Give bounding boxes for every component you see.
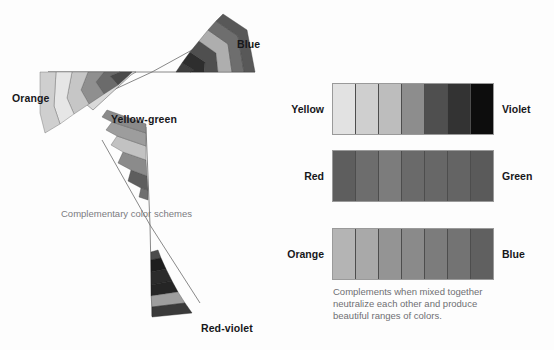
row-label-orange: Orange xyxy=(238,248,324,260)
caption-line-3: beautiful ranges of colors. xyxy=(333,310,513,322)
yellow-violet-row-swatch-6 xyxy=(448,84,471,134)
wedge-label-red-violet: Red-violet xyxy=(201,322,253,334)
red-green-row-swatch-7 xyxy=(471,151,493,201)
wedge-label-yellow-green: Yellow-green xyxy=(111,113,177,125)
caption-line-1: Complements when mixed together xyxy=(333,286,513,298)
yellow-violet-row-swatch-4 xyxy=(402,84,425,134)
orange-blue-row-swatch-2 xyxy=(356,229,379,279)
yellow-violet-row-swatch-3 xyxy=(379,84,402,134)
row-label-yellow: Yellow xyxy=(238,103,324,115)
wedge-label-blue: Blue xyxy=(237,38,260,50)
red-green-row-swatch-6 xyxy=(448,151,471,201)
yellow-violet-row-swatch-1 xyxy=(333,84,356,134)
orange-blue-row-swatch-5 xyxy=(425,229,448,279)
row-label-green: Green xyxy=(502,170,532,182)
figure-canvas: Orange Blue Yellow-green Red-violet Comp… xyxy=(0,0,554,350)
yellow-violet-row-swatch-2 xyxy=(356,84,379,134)
red-green-row-swatch-5 xyxy=(425,151,448,201)
orange-blue-row-swatch-7 xyxy=(471,229,493,279)
caption-complements-mixing: Complements when mixed together neutrali… xyxy=(333,286,513,323)
yellow-violet-row xyxy=(332,83,494,135)
yellow-violet-row-swatch-7 xyxy=(471,84,493,134)
row-label-red: Red xyxy=(238,170,324,182)
yellow-violet-row-swatch-5 xyxy=(425,84,448,134)
wedge-label-orange: Orange xyxy=(12,92,49,104)
orange-blue-row-swatch-1 xyxy=(333,229,356,279)
red-green-row-swatch-2 xyxy=(356,151,379,201)
caption-complementary-color-schemes: Complementary color schemes xyxy=(61,208,192,219)
row-label-blue: Blue xyxy=(502,248,525,260)
red-violet-wedge-bands xyxy=(151,250,192,317)
red-green-row-swatch-4 xyxy=(402,151,425,201)
orange-blue-row-swatch-3 xyxy=(379,229,402,279)
row-label-violet: Violet xyxy=(502,103,530,115)
orange-blue-row-swatch-4 xyxy=(402,229,425,279)
red-green-row xyxy=(332,150,494,202)
red-green-row-swatch-1 xyxy=(333,151,356,201)
red-green-row-swatch-3 xyxy=(379,151,402,201)
orange-blue-row xyxy=(332,228,494,280)
caption-line-2: neutralize each other and produce xyxy=(333,298,513,310)
orange-blue-row-swatch-6 xyxy=(448,229,471,279)
